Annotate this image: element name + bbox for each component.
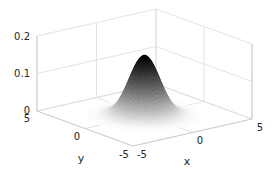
x-tick-label: 0	[197, 135, 203, 146]
z-tick-label: 0.2	[14, 31, 30, 42]
y-tick-label: 0	[74, 131, 80, 142]
surface-plot: 0.2 0.1 0 5 0 -5 -5 0 5 y x	[0, 0, 277, 169]
x-axis-label: x	[184, 155, 191, 168]
x-tick-label: -5	[137, 149, 147, 160]
x-tick-label: 5	[257, 122, 263, 133]
y-tick-label: -5	[119, 149, 129, 160]
z-tick-label: 0.1	[14, 68, 30, 79]
y-tick-label: 5	[24, 113, 30, 124]
y-axis-label: y	[78, 152, 85, 165]
gaussian-surface	[67, 55, 222, 137]
